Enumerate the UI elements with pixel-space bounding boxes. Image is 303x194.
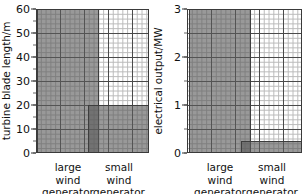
y-axis-tick-labels-right: 0123 bbox=[152, 9, 187, 153]
x-label-line-1: small bbox=[88, 161, 150, 174]
y-tick-label: 20 bbox=[16, 100, 30, 111]
x-label-line-3: generator bbox=[241, 186, 303, 194]
y-tick-label: 2 bbox=[174, 52, 181, 63]
plot-area-right bbox=[187, 9, 302, 153]
y-tick-label: 1 bbox=[174, 100, 181, 111]
x-label-line-2: wind bbox=[88, 174, 150, 187]
x-label-small-wind-generator-left: small wind generator bbox=[88, 161, 150, 194]
x-label-line-2: wind bbox=[241, 174, 303, 187]
y-tick-label: 60 bbox=[16, 4, 30, 15]
chart-panel-turbine-blade-length: turbine blade length/m 0102030405060 lar… bbox=[0, 0, 151, 194]
chart-panel-electrical-output: electrical output/MW 0123 large wind gen… bbox=[152, 0, 303, 194]
x-label-line-3: generator bbox=[88, 186, 150, 194]
bar-small-wind-generator-length bbox=[88, 105, 149, 153]
bar-chart-figure: turbine blade length/m 0102030405060 lar… bbox=[0, 0, 303, 194]
y-tick-label: 10 bbox=[16, 124, 30, 135]
y-tick-label: 30 bbox=[16, 76, 30, 87]
y-tick-label: 40 bbox=[16, 52, 30, 63]
x-axis-labels-right: large wind generator small wind generato… bbox=[187, 157, 302, 194]
y-tick-label: 0 bbox=[174, 148, 181, 159]
bar-small-wind-generator-output bbox=[241, 141, 302, 153]
x-axis-labels-left: large wind generator small wind generato… bbox=[36, 157, 149, 194]
y-axis-tick-labels-left: 0102030405060 bbox=[0, 9, 36, 153]
y-tick-label: 50 bbox=[16, 28, 30, 39]
y-tick-label: 3 bbox=[174, 4, 181, 15]
x-label-line-1: small bbox=[241, 161, 303, 174]
x-label-small-wind-generator-right: small wind generator bbox=[241, 161, 303, 194]
plot-area-left bbox=[36, 9, 149, 153]
bar-large-wind-generator-output bbox=[189, 9, 251, 153]
y-tick-label: 0 bbox=[23, 148, 30, 159]
